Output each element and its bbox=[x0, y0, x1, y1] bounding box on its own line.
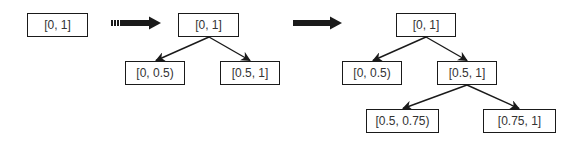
stage3-right-right-node: [0.75, 1] bbox=[483, 109, 556, 133]
edge-arrow bbox=[373, 37, 426, 61]
stage3-right-node: [0.5, 1] bbox=[437, 61, 497, 85]
stage2-root-node: [0, 1] bbox=[178, 13, 239, 37]
stage2-left-node: [0, 0.5) bbox=[125, 61, 185, 85]
edge-arrow bbox=[467, 85, 519, 109]
stage1-root-node: [0, 1] bbox=[27, 13, 88, 37]
edge-arrow bbox=[403, 85, 467, 109]
edge-arrow bbox=[426, 37, 467, 61]
stage3-left-node: [0, 0.5) bbox=[342, 61, 402, 85]
edge-arrow bbox=[156, 37, 209, 61]
stage2-right-node: [0.5, 1] bbox=[220, 61, 280, 85]
interval-subdivision-diagram: [0, 1] [0, 1] [0, 0.5) [0.5, 1] [0, 1] [… bbox=[0, 0, 582, 147]
edge-arrow bbox=[209, 37, 250, 61]
thick-right-arrow-icon bbox=[111, 17, 161, 30]
stage3-root-node: [0, 1] bbox=[396, 13, 456, 37]
stage3-right-left-node: [0.5, 0.75) bbox=[366, 109, 439, 133]
thick-right-arrow-icon bbox=[293, 17, 342, 30]
